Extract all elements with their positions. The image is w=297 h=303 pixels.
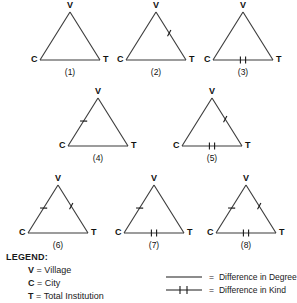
triangle-4-edge-left [68, 98, 98, 146]
triangle-4-shape [62, 96, 134, 148]
triangle-7: VCT(7) [118, 183, 190, 257]
triangle-2-shape [120, 10, 192, 62]
triangle-7-edge-left [124, 185, 154, 233]
legend-definition-c: C = City [28, 278, 60, 288]
triangle-1-caption: (1) [34, 68, 106, 77]
triangle-4-label-c: C [59, 141, 66, 150]
triangle-1: VCT(1) [34, 10, 106, 84]
triangle-4-label-t: T [131, 141, 137, 150]
triangle-7-label-v: V [151, 174, 157, 183]
triangle-8-shape [210, 183, 282, 235]
triangle-6: VCT(6) [22, 183, 94, 257]
triangle-8-label-v: V [243, 174, 249, 183]
triangle-5-edge-right [212, 98, 242, 146]
triangle-6-caption: (6) [22, 241, 94, 250]
triangle-3-caption: (3) [207, 68, 279, 77]
triangle-4-edge-right [98, 98, 128, 146]
legend-key-degree-label: Difference in Degree [219, 272, 297, 282]
legend-meaning-c: City [45, 278, 61, 288]
triangle-8-caption: (8) [210, 241, 282, 250]
triangle-3-edge-left [213, 12, 243, 60]
plain-line-icon [164, 272, 204, 282]
legend-definition-t: T = Total Institution [28, 291, 104, 301]
triangle-7-edge-right [154, 185, 184, 233]
legend-definition-v: V = Village [28, 265, 71, 275]
triangle-8: VCT(8) [210, 183, 282, 257]
legend-key-kind-equals: = [209, 285, 214, 295]
legend-key-kind-label: Difference in Kind [219, 285, 286, 295]
legend-title: LEGEND: [6, 252, 48, 262]
legend-meaning-t: Total Institution [44, 291, 104, 301]
triangle-1-label-t: T [103, 55, 109, 64]
triangle-6-shape [22, 183, 94, 235]
legend-equals-v: = [37, 265, 42, 275]
triangle-5-shape [176, 96, 248, 148]
triangle-3-edge-right [243, 12, 273, 60]
legend-equals-c: = [37, 278, 42, 288]
triangle-8-edge-left [216, 185, 246, 233]
triangle-1-edge-left [40, 12, 70, 60]
legend-key-kind: = Difference in Kind [164, 285, 286, 295]
triangle-6-label-t: T [91, 228, 97, 237]
triangle-3-label-t: T [276, 55, 282, 64]
triangle-6-edge-left [28, 185, 58, 233]
triangle-3-label-v: V [240, 1, 246, 10]
triangle-2: VCT(2) [120, 10, 192, 84]
barred-line-icon [164, 285, 204, 295]
legend-term-t: T [28, 291, 34, 301]
triangle-7-shape [118, 183, 190, 235]
legend-term-c: C [28, 278, 35, 288]
legend-meaning-v: Village [44, 265, 71, 275]
triangle-4-caption: (4) [62, 154, 134, 163]
triangle-3-shape [207, 10, 279, 62]
triangle-1-label-c: C [31, 55, 38, 64]
triangle-2-label-c: C [117, 55, 124, 64]
triangle-5-edge-left [182, 98, 212, 146]
triangle-5-caption: (5) [176, 154, 248, 163]
triangle-3: VCT(3) [207, 10, 279, 84]
triangle-2-label-v: V [153, 1, 159, 10]
legend-key-degree-equals: = [209, 272, 214, 282]
triangle-3-label-c: C [204, 55, 211, 64]
triangle-1-shape [34, 10, 106, 62]
triangle-2-edge-left [126, 12, 156, 60]
triangle-4-label-v: V [95, 87, 101, 96]
legend: LEGEND: V = Village C = City T = Total I… [6, 252, 297, 303]
triangle-6-label-v: V [55, 174, 61, 183]
triangle-2-label-t: T [189, 55, 195, 64]
triangle-5: VCT(5) [176, 96, 248, 170]
triangle-7-label-t: T [187, 228, 193, 237]
triangle-8-edge-right [246, 185, 276, 233]
legend-term-v: V [28, 265, 34, 275]
triangle-1-label-v: V [67, 1, 73, 10]
triangle-8-label-t: T [279, 228, 285, 237]
triangle-4: VCT(4) [62, 96, 134, 170]
triangle-6-label-c: C [19, 228, 26, 237]
triangle-5-label-t: T [245, 141, 251, 150]
triangle-1-edge-right [70, 12, 100, 60]
legend-equals-t: = [36, 291, 41, 301]
triangle-5-label-v: V [209, 87, 215, 96]
triangle-5-label-c: C [173, 141, 180, 150]
triangle-7-caption: (7) [118, 241, 190, 250]
triangle-7-label-c: C [115, 228, 122, 237]
triangle-2-caption: (2) [120, 68, 192, 77]
legend-key-degree: = Difference in Degree [164, 272, 297, 282]
triangle-6-edge-right [58, 185, 88, 233]
triangle-2-edge-right [156, 12, 186, 60]
triangle-8-label-c: C [207, 228, 214, 237]
